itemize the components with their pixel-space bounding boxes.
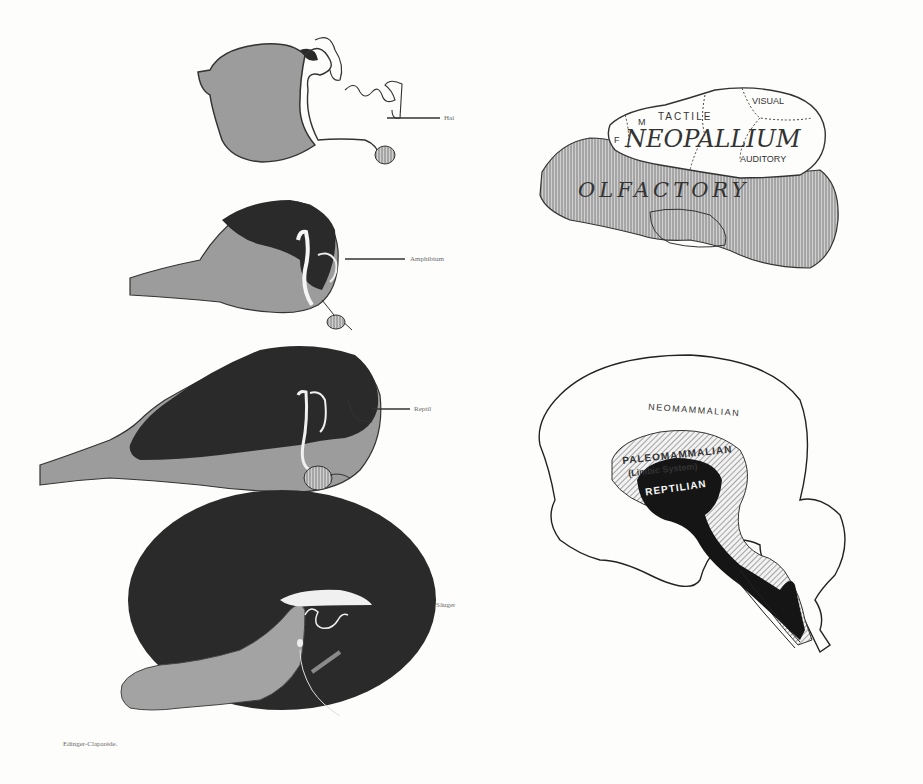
- tactile-label: TACTILE: [658, 111, 712, 122]
- shark-label: Hai: [444, 114, 454, 122]
- auditory-label: AUDITORY: [740, 154, 786, 164]
- figure-credit: Edinger-Claparède.: [63, 740, 118, 748]
- reptile-label: Reptil: [414, 405, 431, 413]
- mammal-label: Säuger: [436, 601, 456, 609]
- olfactory-label: OLFACTORY: [578, 178, 749, 202]
- frontal-label: F: [614, 135, 620, 145]
- visual-label: VISUAL: [752, 96, 784, 106]
- neopallium-label: NEOPALLIUM: [624, 125, 802, 153]
- shark-brain: [198, 38, 402, 164]
- amphibian-brain: [130, 200, 352, 330]
- triune-brain-diagram: [539, 355, 845, 652]
- amphibian-label: Amphibium: [410, 255, 444, 263]
- mammal-brain: [121, 490, 436, 716]
- reptile-brain: [40, 346, 381, 492]
